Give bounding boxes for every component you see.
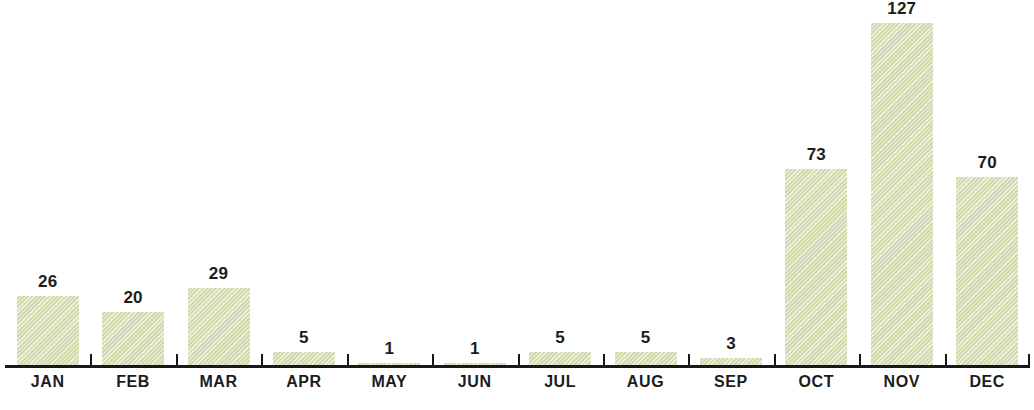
- bar-slot: 127: [859, 0, 944, 366]
- bar[interactable]: [871, 23, 933, 366]
- x-axis-tick-label: JUL: [517, 371, 602, 395]
- x-axis-tick-label: JAN: [5, 371, 90, 395]
- x-axis-tick-label: DEC: [944, 371, 1029, 395]
- bar-slot: 1: [347, 0, 432, 366]
- x-axis-tick-label: NOV: [859, 371, 944, 395]
- bar[interactable]: [615, 352, 677, 366]
- bar-slot: 29: [176, 0, 261, 366]
- x-axis-tick-label: APR: [261, 371, 346, 395]
- x-axis-tick-label: JUN: [432, 371, 517, 395]
- bar-slot: 70: [944, 0, 1029, 366]
- x-axis-tick-label: AUG: [603, 371, 688, 395]
- x-axis-tick-label: MAR: [176, 371, 261, 395]
- bar-slot: 20: [90, 0, 175, 366]
- bar-value-label: 26: [38, 273, 57, 290]
- bar[interactable]: [273, 352, 335, 366]
- bar-slot: 5: [261, 0, 346, 366]
- bar[interactable]: [956, 177, 1018, 366]
- bar-value-label: 29: [209, 265, 228, 282]
- bar-slot: 5: [517, 0, 602, 366]
- bar[interactable]: [529, 352, 591, 366]
- x-axis-tick-label: MAY: [347, 371, 432, 395]
- bar-value-label: 5: [641, 329, 651, 346]
- bar[interactable]: [102, 312, 164, 366]
- plot-area: 2620295115537312770: [0, 0, 1034, 366]
- x-axis-tick-label: OCT: [774, 371, 859, 395]
- bar-value-label: 5: [299, 329, 309, 346]
- bar-slot: 5: [603, 0, 688, 366]
- x-axis-tick-label: SEP: [688, 371, 773, 395]
- bar-value-label: 3: [726, 335, 736, 352]
- bar-chart: 2620295115537312770 JANFEBMARAPRMAYJUNJU…: [0, 0, 1034, 410]
- x-axis-category-labels: JANFEBMARAPRMAYJUNJULAUGSEPOCTNOVDEC: [5, 371, 1030, 395]
- bar-slot: 26: [5, 0, 90, 366]
- bar-slot: 3: [688, 0, 773, 366]
- footer-caption-strip: [0, 399, 1034, 410]
- bar-series: 2620295115537312770: [5, 0, 1030, 366]
- x-axis-tick-label: FEB: [90, 371, 175, 395]
- bar-value-label: 127: [887, 0, 916, 17]
- bar[interactable]: [785, 169, 847, 366]
- bar-slot: 73: [774, 0, 859, 366]
- bar-value-label: 5: [555, 329, 565, 346]
- bar-value-label: 73: [807, 146, 826, 163]
- bar[interactable]: [188, 288, 250, 366]
- x-axis-line: [5, 365, 1030, 368]
- bar-slot: 1: [432, 0, 517, 366]
- bar[interactable]: [17, 296, 79, 366]
- bar-value-label: 70: [978, 154, 997, 171]
- bar-value-label: 1: [470, 340, 480, 357]
- bar-value-label: 20: [123, 289, 142, 306]
- bar-value-label: 1: [385, 340, 395, 357]
